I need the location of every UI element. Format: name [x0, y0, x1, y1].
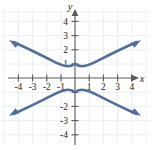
y-tick-label: 4 — [63, 17, 68, 27]
y-tick-label: -3 — [60, 116, 68, 126]
graph-figure: -4 -3 -2 -1 1 2 3 4 4 3 2 1 -2 -3 -4 x y — [0, 0, 152, 150]
x-tick-label: 4 — [129, 82, 134, 92]
axis-lines — [8, 9, 139, 145]
x-tick-label: 2 — [101, 82, 106, 92]
y-tick-label: -2 — [60, 102, 68, 112]
y-tick-label: 3 — [63, 31, 68, 41]
grid-lines — [2, 10, 150, 143]
y-axis-label: y — [67, 1, 73, 12]
x-axis-label: x — [139, 73, 145, 84]
x-tick-label: 3 — [115, 82, 120, 92]
y-tick-label: -4 — [60, 130, 68, 140]
x-tick-label: -2 — [43, 82, 51, 92]
coordinate-plane: -4 -3 -2 -1 1 2 3 4 4 3 2 1 -2 -3 -4 x y — [0, 0, 152, 150]
y-tick-label: 2 — [63, 45, 68, 55]
y-axis-arrow — [72, 9, 79, 16]
x-tick-label: -4 — [14, 82, 22, 92]
x-tick-label: -3 — [29, 82, 37, 92]
